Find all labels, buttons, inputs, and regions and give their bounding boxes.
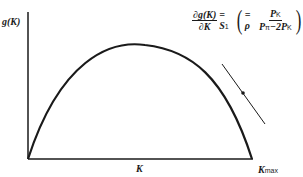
left-paren: ( — [237, 6, 243, 34]
lhs-fraction: ∂g(K) ∂K — [192, 9, 217, 32]
derivative-equation: ∂g(K) ∂K = S1 ( = ρ PK Pπ−2PK ) — [190, 6, 303, 34]
s1-subscript: 1 — [225, 23, 229, 30]
tangent-point — [241, 91, 245, 95]
lhs-denominator: ∂K — [199, 21, 211, 32]
pk-sub: K — [276, 11, 281, 18]
x-max-k: K — [258, 164, 265, 175]
x-max-label: Kmax — [258, 164, 278, 175]
right-paren: ) — [296, 6, 302, 34]
x-max-subscript: max — [265, 167, 278, 174]
lhs-numerator: ∂g(K) — [192, 9, 217, 21]
rhs-numerator: PK — [269, 8, 282, 21]
rhs-fraction: PK Pπ−2PK — [259, 8, 292, 33]
g-of-k-curve — [28, 44, 252, 159]
minus-2p: −2P — [270, 21, 287, 32]
y-axis-label: g(K) — [2, 16, 20, 27]
x-axis-label: K — [136, 163, 143, 174]
s1-term: = S1 — [219, 9, 235, 31]
rhs-denominator: Pπ−2PK — [259, 21, 292, 33]
pk2-sub: K — [287, 24, 292, 31]
rho-term: = ρ — [245, 9, 257, 31]
